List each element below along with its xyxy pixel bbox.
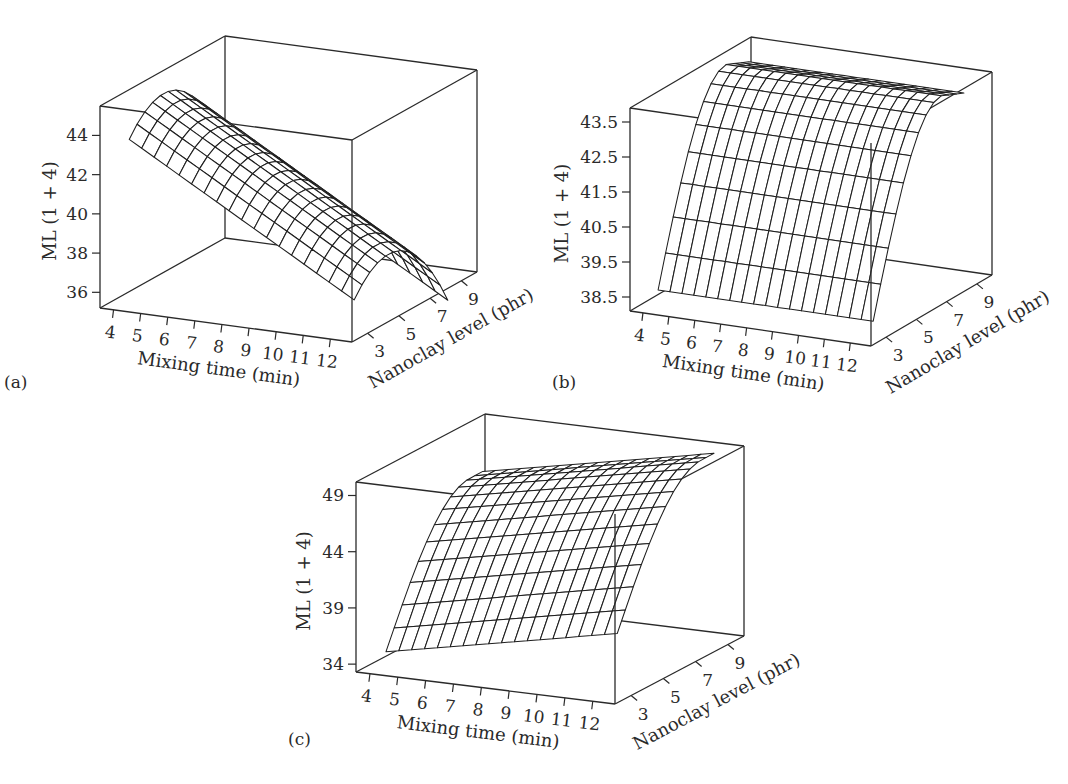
z-tick-label: 44: [322, 542, 344, 562]
z-axis-label: ML (1 + 4): [39, 161, 60, 261]
x-tick-label: 8: [212, 336, 225, 357]
z-tick-label: 44: [66, 125, 88, 145]
y-tick: [461, 281, 467, 286]
x-tick-label: 9: [499, 702, 512, 723]
x-tick-label: 8: [737, 339, 750, 360]
y-tick: [663, 679, 669, 684]
x-tick: [425, 681, 426, 689]
x-tick-label: 6: [416, 692, 429, 713]
x-tick: [221, 324, 222, 332]
x-tick-label: 11: [288, 346, 312, 368]
x-tick-label: 7: [711, 336, 724, 357]
x-tick-label: 12: [315, 350, 339, 372]
x-tick-label: 6: [685, 332, 698, 353]
box-edge: [225, 36, 477, 70]
box-edge: [352, 70, 477, 140]
z-tick-label: 42: [66, 165, 88, 185]
x-tick-label: 10: [261, 343, 285, 365]
y-tick-label: 5: [670, 687, 681, 707]
z-tick-label: 36: [66, 282, 88, 302]
y-tick-label: 3: [893, 345, 904, 365]
x-tick-label: 5: [388, 689, 401, 710]
box-edge: [356, 414, 485, 482]
x-tick-label: 9: [239, 340, 252, 361]
x-tick-label: 8: [471, 699, 484, 720]
x-tick: [480, 687, 481, 695]
x-tick: [823, 339, 824, 347]
surface-plot-a: 3638404244ML (1 + 4)456789101112Mixing t…: [4, 36, 537, 393]
y-tick: [728, 645, 734, 650]
panel-label: (b): [552, 372, 576, 392]
x-tick: [275, 332, 276, 340]
box-edge: [100, 238, 225, 308]
z-tick-label: 40: [66, 204, 88, 224]
y-axis-label: Nanoclay level (phr): [629, 649, 803, 754]
surface-wireframe: [386, 453, 714, 651]
y-tick: [631, 696, 637, 701]
x-tick: [167, 317, 168, 325]
y-tick: [696, 662, 702, 667]
x-tick: [772, 332, 773, 340]
x-tick-label: 5: [659, 328, 672, 349]
y-tick-label: 7: [437, 306, 448, 326]
x-tick: [508, 691, 509, 699]
x-tick: [720, 324, 721, 332]
z-tick-label: 40.5: [580, 217, 618, 237]
x-tick-label: 11: [550, 709, 574, 731]
x-tick: [302, 335, 303, 343]
surface-plot-c: 34394449ML (1 + 4)456789101112Mixing tim…: [288, 414, 803, 754]
surface-plot-b: 38.539.540.541.542.543.5ML (1 + 4)456789…: [551, 37, 1053, 398]
y-tick: [430, 298, 436, 303]
box-edge: [751, 37, 992, 72]
x-tick: [668, 317, 669, 325]
x-tick: [849, 343, 850, 351]
y-tick: [399, 316, 405, 321]
x-tick: [642, 313, 643, 321]
x-tick: [746, 328, 747, 336]
y-axis-label: Nanoclay level (phr): [364, 284, 536, 393]
y-tick-label: 9: [734, 653, 745, 673]
y-tick-label: 7: [702, 670, 713, 690]
z-tick-label: 39.5: [580, 252, 618, 272]
x-tick: [564, 698, 565, 706]
x-tick-label: 12: [577, 712, 601, 734]
z-axis-label: ML (1 + 4): [551, 164, 572, 264]
x-tick: [797, 335, 798, 343]
box-edge: [485, 414, 744, 446]
x-tick-label: 4: [104, 321, 117, 342]
x-tick-label: 12: [835, 354, 859, 376]
y-tick: [947, 302, 953, 307]
x-tick-label: 11: [809, 350, 833, 372]
x-tick: [452, 684, 453, 692]
x-tick-label: 9: [763, 343, 776, 364]
x-tick: [592, 701, 593, 709]
x-tick: [536, 694, 537, 702]
z-tick-label: 38.5: [580, 287, 618, 307]
z-tick-label: 38: [66, 243, 88, 263]
y-axis-label: Nanoclay level (phr): [882, 285, 1053, 397]
y-tick: [886, 337, 892, 342]
z-axis-label: ML (1 + 4): [293, 531, 314, 631]
z-tick-label: 43.5: [580, 112, 618, 132]
x-tick: [194, 321, 195, 329]
x-tick-label: 5: [131, 325, 144, 346]
x-tick: [369, 674, 370, 682]
x-tick: [397, 677, 398, 685]
y-tick-label: 9: [468, 289, 479, 309]
figure-canvas: 3638404244ML (1 + 4)456789101112Mixing t…: [0, 0, 1068, 784]
y-tick-label: 5: [405, 324, 416, 344]
x-tick-label: 7: [185, 332, 198, 353]
x-tick-label: 10: [783, 346, 807, 368]
y-tick-label: 3: [638, 704, 649, 724]
x-tick: [694, 320, 695, 328]
z-tick-label: 42.5: [580, 147, 618, 167]
y-tick: [368, 333, 374, 338]
y-tick-label: 5: [923, 327, 934, 347]
x-tick: [329, 339, 330, 347]
x-tick-label: 7: [444, 696, 457, 717]
panel-label: (c): [288, 729, 311, 749]
z-tick-label: 39: [322, 598, 344, 618]
y-tick-label: 7: [953, 310, 964, 330]
z-tick-label: 34: [322, 654, 344, 674]
y-tick-label: 3: [374, 341, 385, 361]
